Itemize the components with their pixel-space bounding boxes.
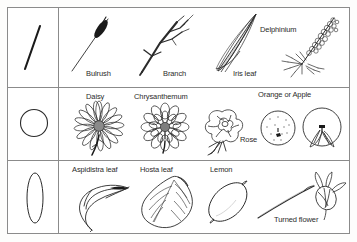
label-bulrush: Bulrush xyxy=(86,70,111,78)
aspidistra-leaf-drawing xyxy=(70,176,136,232)
hosta-leaf-drawing xyxy=(134,174,202,232)
diagonal-line-symbol xyxy=(18,22,48,74)
row-line-content: Bulrush Branch xyxy=(58,8,349,87)
branch-drawing xyxy=(136,12,196,76)
shape-symbol-cell-line xyxy=(8,8,58,87)
label-aspidistra-leaf: Aspidistra leaf xyxy=(72,166,118,174)
circle-symbol xyxy=(19,107,49,139)
label-iris-leaf: Iris leaf xyxy=(233,70,256,78)
chart-row-line: Bulrush Branch xyxy=(8,8,349,87)
chart-row-circle: Daisy xyxy=(8,87,349,160)
label-hosta-leaf: Hosta leaf xyxy=(140,166,173,174)
label-orange-or-apple: Orange or Apple xyxy=(258,91,311,99)
row-circle-content: Daisy xyxy=(58,87,349,160)
lemon-drawing xyxy=(204,178,256,228)
daisy-drawing xyxy=(72,103,128,157)
shape-symbol-cell-oval xyxy=(8,160,58,235)
ellipse-symbol xyxy=(22,171,48,225)
label-rose: Rose xyxy=(240,136,257,144)
delphinium-drawing xyxy=(276,12,346,78)
row-oval-content: Aspidistra leaf Hosta leaf xyxy=(58,160,349,235)
label-daisy: Daisy xyxy=(86,93,104,101)
chrysanthemum-drawing xyxy=(138,103,194,155)
iris-leaf-drawing xyxy=(210,11,266,75)
chart-row-oval: Aspidistra leaf Hosta leaf xyxy=(8,160,349,235)
label-delphinium: Delphinium xyxy=(260,26,297,34)
shape-symbol-cell-circle xyxy=(8,87,58,160)
label-lemon: Lemon xyxy=(210,166,232,174)
label-chrysanthemum: Chrysanthemum xyxy=(134,93,188,101)
bulrush-drawing xyxy=(64,14,118,76)
orange-and-apple-drawing xyxy=(256,103,356,155)
label-turned-flower: Turned flower xyxy=(274,216,318,224)
chart-frame: Bulrush Branch xyxy=(7,7,350,234)
rose-drawing xyxy=(198,107,250,155)
label-branch: Branch xyxy=(163,70,186,78)
